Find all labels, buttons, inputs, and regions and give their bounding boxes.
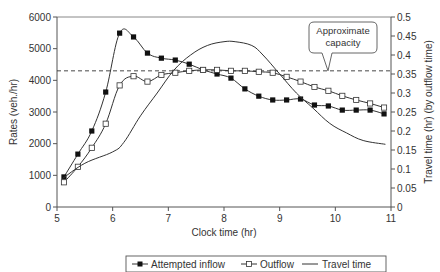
open-square-marker [298, 79, 303, 84]
x-tick-label: 8 [221, 213, 227, 224]
filled-square-marker [242, 86, 247, 91]
chart-container: 010002000300040005000600000.050.10.150.2… [0, 0, 440, 272]
open-square-marker [61, 180, 66, 185]
x-axis-title: Clock time (hr) [191, 227, 256, 238]
legend: Attempted inflow Outflow Travel time [126, 256, 386, 272]
x-tick-label: 11 [386, 213, 397, 224]
open-square-marker [214, 67, 219, 72]
open-square-marker [312, 84, 317, 89]
filled-square-marker [159, 56, 164, 61]
y2-tick-label: 0.05 [397, 183, 417, 194]
y2-tick-label: 0.2 [397, 126, 411, 137]
callout-line-2: capacity [326, 37, 361, 48]
capacity-callout: Approximate capacity [309, 22, 377, 71]
open-square-marker [187, 68, 192, 73]
filled-square-marker [340, 108, 345, 113]
y-tick-label: 1000 [29, 170, 52, 181]
y2-tick-label: 0.15 [397, 145, 417, 156]
y-tick-label: 0 [45, 202, 51, 213]
open-square-marker [201, 67, 206, 72]
y-tick-label: 4000 [29, 75, 52, 86]
legend-label: Outflow [260, 259, 295, 270]
y2-tick-label: 0.1 [397, 164, 411, 175]
filled-square-marker [89, 128, 94, 133]
open-square-marker [381, 105, 386, 110]
open-square-marker [242, 68, 247, 73]
y2-tick-label: 0.5 [397, 12, 411, 23]
x-tick-label: 6 [110, 213, 116, 224]
x-tick-label: 5 [54, 213, 60, 224]
y-tick-label: 5000 [29, 43, 52, 54]
y2-tick-label: 0 [397, 202, 403, 213]
filled-square-marker [256, 94, 261, 99]
y-tick-label: 3000 [29, 107, 52, 118]
x-tick-label: 7 [166, 213, 172, 224]
filled-square-marker [103, 89, 108, 94]
open-square-marker [131, 74, 136, 79]
y-tick-label: 2000 [29, 138, 52, 149]
open-square-marker [284, 74, 289, 79]
open-square-marker [159, 72, 164, 77]
open-square-marker [368, 101, 373, 106]
filled-square-marker [131, 34, 136, 39]
filled-square-marker [381, 111, 386, 116]
y2-tick-label: 0.25 [397, 107, 417, 118]
open-square-marker [117, 83, 122, 88]
y2-tick-label: 0.3 [397, 88, 411, 99]
y2-tick-label: 0.45 [397, 31, 417, 42]
open-square-marker [326, 88, 331, 93]
series-line [64, 70, 384, 183]
filled-square-marker [284, 97, 289, 102]
chart-svg: 010002000300040005000600000.050.10.150.2… [0, 0, 440, 272]
filled-square-marker [75, 152, 80, 157]
series-outflow [61, 67, 386, 185]
open-square-marker [270, 70, 275, 75]
filled-square-marker [270, 97, 275, 102]
open-square-marker [89, 145, 94, 150]
x-tick-label: 9 [277, 213, 283, 224]
filled-square-marker [326, 103, 331, 108]
open-square-marker [354, 97, 359, 102]
open-square-marker [228, 68, 233, 73]
open-square-marker [145, 79, 150, 84]
filled-square-marker-icon [138, 262, 143, 267]
filled-square-marker [173, 57, 178, 62]
x-tick-label: 10 [330, 213, 342, 224]
y-tick-label: 6000 [29, 12, 52, 23]
filled-square-marker [354, 108, 359, 113]
open-square-marker [103, 121, 108, 126]
open-square-marker [340, 93, 345, 98]
filled-square-marker [228, 76, 233, 81]
filled-square-marker [368, 108, 373, 113]
y2-axis-title: Travel time (hr) (by outflow time) [423, 40, 434, 184]
open-square-marker [256, 69, 261, 74]
y2-tick-label: 0.4 [397, 50, 411, 61]
y2-tick-label: 0.35 [397, 69, 417, 80]
filled-square-marker [117, 31, 122, 36]
y-axis-title: Rates (veh./hr) [8, 79, 19, 145]
callout-line-1: Approximate [316, 25, 369, 36]
filled-square-marker [187, 62, 192, 67]
filled-square-marker [145, 51, 150, 56]
filled-square-marker [312, 102, 317, 107]
open-square-marker-icon [247, 262, 252, 267]
legend-label: Travel time [322, 259, 372, 270]
legend-label: Attempted inflow [151, 259, 226, 270]
